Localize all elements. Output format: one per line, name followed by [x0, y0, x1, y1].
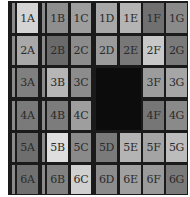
- tile-edge-strip: [42, 101, 45, 130]
- tile-5e[interactable]: 5E: [120, 133, 141, 162]
- tile-2a[interactable]: 2A: [17, 36, 38, 65]
- tile-edge-strip: [12, 101, 15, 130]
- tile-edge-strip: [12, 165, 15, 194]
- tile-edge-strip: [42, 3, 45, 33]
- tile-5f[interactable]: 5F: [143, 133, 164, 162]
- tile-6d[interactable]: 6D: [96, 165, 117, 194]
- tile-2d[interactable]: 2D: [96, 36, 117, 65]
- tile-edge-strip: [12, 3, 15, 33]
- tile-3a[interactable]: 3A: [17, 68, 38, 97]
- tile-2g[interactable]: 2G: [166, 36, 187, 65]
- tile-5b[interactable]: 5B: [47, 133, 68, 162]
- tile-6b[interactable]: 6B: [47, 165, 68, 194]
- empty-slot: [96, 68, 141, 130]
- tile-board: 1A1B1C1D1E1F1G2A2B2C2D2E2F2G3A3B3C3F3G4A…: [8, 1, 188, 195]
- tile-1b[interactable]: 1B: [47, 3, 68, 33]
- tile-2b[interactable]: 2B: [47, 36, 68, 65]
- tile-edge-strip: [12, 68, 15, 97]
- tile-4f[interactable]: 4F: [143, 101, 164, 130]
- tile-1d[interactable]: 1D: [96, 3, 117, 33]
- tile-6e[interactable]: 6E: [120, 165, 141, 194]
- tile-6a[interactable]: 6A: [17, 165, 38, 194]
- tile-edge-strip: [42, 133, 45, 162]
- tile-4b[interactable]: 4B: [47, 101, 68, 130]
- tile-edge-strip: [12, 133, 15, 162]
- tile-1c[interactable]: 1C: [71, 3, 91, 33]
- tile-5g[interactable]: 5G: [166, 133, 187, 162]
- tile-3g[interactable]: 3G: [166, 68, 187, 97]
- tile-1a[interactable]: 1A: [17, 3, 38, 33]
- tile-6f[interactable]: 6F: [143, 165, 164, 194]
- tile-6c[interactable]: 6C: [71, 165, 91, 194]
- tile-2c[interactable]: 2C: [71, 36, 91, 65]
- tile-5c[interactable]: 5C: [71, 133, 91, 162]
- tile-edge-strip: [42, 36, 45, 65]
- tile-5d[interactable]: 5D: [96, 133, 117, 162]
- tile-6g[interactable]: 6G: [166, 165, 187, 194]
- tile-edge-strip: [42, 165, 45, 194]
- tile-1f[interactable]: 1F: [143, 3, 164, 33]
- tile-2f[interactable]: 2F: [143, 36, 164, 65]
- tile-4a[interactable]: 4A: [17, 101, 38, 130]
- tile-3b[interactable]: 3B: [47, 68, 68, 97]
- tile-1e[interactable]: 1E: [120, 3, 141, 33]
- tile-3c[interactable]: 3C: [71, 68, 91, 97]
- tile-edge-strip: [12, 36, 15, 65]
- tile-2e[interactable]: 2E: [120, 36, 141, 65]
- tile-edge-strip: [42, 68, 45, 97]
- tile-3f[interactable]: 3F: [143, 68, 164, 97]
- tile-4c[interactable]: 4C: [71, 101, 91, 130]
- tile-5a[interactable]: 5A: [17, 133, 38, 162]
- tile-1g[interactable]: 1G: [166, 3, 187, 33]
- tile-4g[interactable]: 4G: [166, 101, 187, 130]
